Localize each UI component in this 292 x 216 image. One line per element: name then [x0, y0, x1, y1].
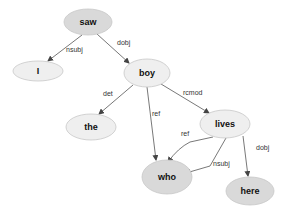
- edge-arrow: [147, 87, 156, 160]
- edge-label: dobj: [256, 144, 270, 152]
- edge-lives-here-dobj: dobj: [243, 136, 270, 176]
- edge-label: ref: [152, 110, 160, 117]
- edges-layer: nsubjdobjdetrefrcmodrefnsubjdobj: [48, 34, 270, 176]
- edge-label: rcmod: [183, 89, 203, 96]
- edge-arrow: [186, 138, 226, 173]
- node-label: the: [84, 122, 98, 132]
- edge-boy-the-det: det: [99, 85, 133, 114]
- edge-saw-boy-dobj: dobj: [97, 34, 131, 63]
- dependency-graph: nsubjdobjdetrefrcmodrefnsubjdobj sawIboy…: [0, 0, 292, 216]
- edge-saw-I-nsubj: nsubj: [48, 35, 83, 61]
- node-who[interactable]: who: [142, 160, 192, 194]
- node-label: saw: [79, 17, 97, 27]
- edge-arrow: [243, 136, 248, 176]
- node-label: who: [157, 172, 176, 182]
- node-here[interactable]: here: [226, 177, 274, 205]
- edge-boy-who-ref: ref: [147, 87, 160, 160]
- node-saw[interactable]: saw: [64, 9, 112, 35]
- nodes-layer: sawIboytheliveswhohere: [13, 9, 274, 205]
- node-label: lives: [215, 119, 235, 129]
- edge-lives-who-ref: ref: [168, 130, 213, 162]
- edge-lives-who-nsubj: nsubj: [186, 138, 230, 173]
- edge-label: det: [103, 90, 113, 97]
- edge-label: dobj: [117, 39, 131, 47]
- edge-boy-lives-rcmod: rcmod: [161, 84, 209, 113]
- node-I[interactable]: I: [13, 61, 63, 81]
- edge-arrow: [168, 137, 213, 162]
- node-lives[interactable]: lives: [200, 110, 250, 138]
- edge-label: nsubj: [213, 160, 230, 168]
- edge-label: ref: [181, 130, 189, 137]
- node-the[interactable]: the: [66, 114, 116, 140]
- edge-label: nsubj: [66, 46, 83, 54]
- node-boy[interactable]: boy: [124, 59, 170, 87]
- node-label: here: [240, 186, 259, 196]
- node-label: I: [37, 66, 40, 76]
- node-label: boy: [139, 68, 155, 78]
